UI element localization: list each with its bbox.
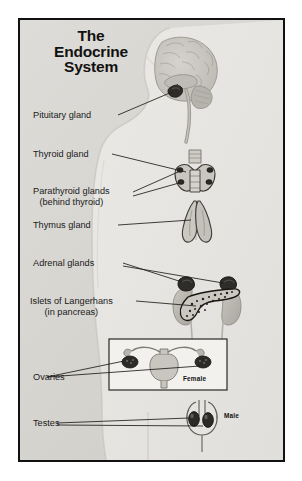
label-islets-sub: (in pancreas) — [30, 307, 113, 318]
endocrine-system-poster: The Endocrine System Pituitary gland Thy… — [0, 0, 302, 481]
label-islets-of-langerhans: Islets of Langerhans (in pancreas) — [30, 296, 113, 317]
label-parathyroid-sub: (behind thyroid) — [33, 197, 110, 208]
label-ovaries: Ovaries — [33, 372, 65, 383]
title-line-2: Endocrine — [32, 44, 150, 60]
title-line-1: The — [32, 28, 150, 44]
label-thyroid-gland: Thyroid gland — [33, 149, 89, 160]
caption-male: Male — [224, 412, 239, 419]
label-parathyroid-main: Parathyroid glands — [33, 186, 110, 196]
label-thymus-gland: Thymus gland — [33, 220, 91, 231]
label-islets-main: Islets of Langerhans — [30, 296, 113, 306]
label-parathyroid-glands: Parathyroid glands (behind thyroid) — [33, 186, 110, 207]
title-line-3: System — [32, 59, 150, 75]
endocrine-illustration — [20, 20, 283, 460]
label-testes: Testes — [33, 418, 60, 429]
caption-female: Female — [183, 375, 206, 382]
label-pituitary-gland: Pituitary gland — [33, 110, 91, 121]
poster-frame: The Endocrine System Pituitary gland Thy… — [18, 18, 285, 462]
page-title: The Endocrine System — [32, 28, 150, 75]
label-adrenal-glands: Adrenal glands — [33, 258, 94, 269]
female-inset — [109, 339, 227, 390]
